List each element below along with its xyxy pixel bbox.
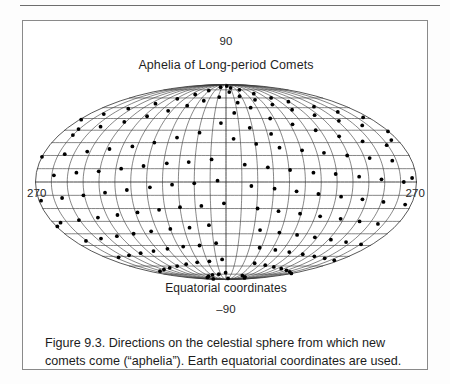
mollweide-projection bbox=[34, 83, 418, 281]
figure-box: 90 Aphelia of Long-period Comets 270 270… bbox=[22, 20, 428, 370]
axis-label-top: 90 bbox=[23, 35, 429, 47]
figure-page: 90 Aphelia of Long-period Comets 270 270… bbox=[0, 0, 450, 384]
axis-label-bottom: –90 bbox=[23, 303, 429, 315]
chart-title: Aphelia of Long-period Comets bbox=[23, 58, 429, 72]
figure-caption: Figure 9.3. Directions on the celestial … bbox=[45, 335, 411, 370]
axis-label-x: Equatorial coordinates bbox=[23, 281, 429, 295]
plot-area: 90 Aphelia of Long-period Comets 270 270… bbox=[23, 21, 429, 301]
page-top-rule bbox=[20, 5, 440, 6]
